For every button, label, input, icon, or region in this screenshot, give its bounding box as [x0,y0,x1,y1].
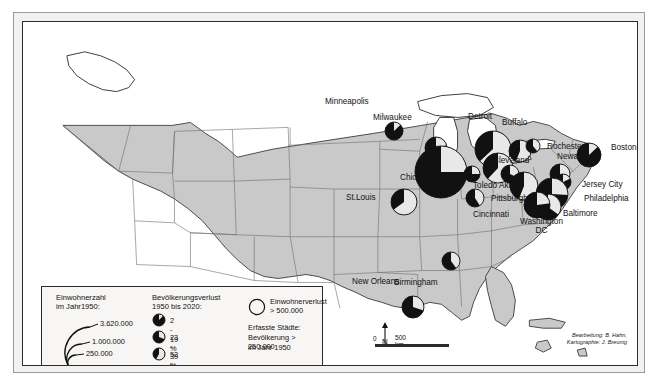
city-label: WashingtonDC [520,218,563,235]
city-label: New Orleans [352,278,399,287]
city-symbol [525,138,541,154]
cuba [529,318,565,328]
city-symbol [523,191,551,219]
attribution: Bearbeitung: B. Hahn, Kartographie: J. B… [567,332,627,347]
city-label: Birmingham [394,279,438,288]
city-label: Cincinnati [473,211,509,220]
legend-loss-title-2: 1950 bis 2020: [152,302,248,311]
city-label: Jersey City [582,181,623,190]
city-label: Boston [611,144,637,153]
legend-size-title-1: Einwohnerzahl [56,293,148,302]
island-small-1 [535,340,551,352]
city-label: Milwaukee [373,114,412,123]
legend-note-line-1: Erfasste Städte: [248,323,301,332]
legend-note-line-3: im Jahr 1950 [248,343,291,352]
city-symbol [384,121,404,141]
city-symbol [390,188,418,216]
city-symbol [465,188,485,208]
legend-absolute-circle [248,298,266,316]
city-symbol [401,295,425,319]
legend-size-value-0: 3.620.000 [100,319,133,328]
vancouver-island [67,52,135,92]
legend-loss-block: Bevölkerungsverlust 1950 bis 2020: 2 - 1… [152,293,248,312]
legend-panel: Einwohnerzahl im Jahr1950: 3.620.000 1.0… [41,286,323,366]
map-canvas: Minneapolis Milwaukee Chicago Detroit Bu… [22,21,638,366]
city-symbol [414,145,468,199]
island-small-2 [577,348,587,356]
attribution-line-2: Kartographie: J. Breunig [567,339,627,347]
city-label: Chicago [400,174,430,183]
map-outer-frame: Minneapolis Milwaukee Chicago Detroit Bu… [13,12,645,373]
city-symbol [441,251,461,271]
city-label: St.Louis [346,194,376,203]
city-label: Philadelphia [584,195,629,204]
city-label: Baltimore [563,210,598,219]
legend-size-block: Einwohnerzahl im Jahr1950: 3.620.000 1.0… [56,293,148,312]
legend-absolute-line-1: Einwohnerverlust [270,297,327,306]
map-screenshot: Minneapolis Milwaukee Chicago Detroit Bu… [0,0,658,385]
scale-bar-rule [375,344,449,347]
city-label: Newark [557,153,585,162]
legend-size-value-1: 1.000.000 [92,337,125,346]
attribution-line-1: Bearbeitung: B. Hahn, [567,332,627,340]
scale-zero-label: 0 [373,335,377,342]
legend-class-label: 52 - 65 % [170,350,178,366]
city-label: Buffalo [502,119,527,128]
legend-class-pie-icon [152,313,166,327]
city-label: Minneapolis [325,98,369,107]
legend-absolute-line-2: > 500.000 [270,306,303,315]
legend-class-pie-icon [152,347,166,361]
legend-size-value-2: 250.000 [86,349,113,358]
legend-loss-title-1: Bevölkerungsverlust [152,293,248,302]
legend-class-pie-icon [152,330,166,344]
florida [485,267,515,327]
city-label: Detroit [468,113,492,122]
